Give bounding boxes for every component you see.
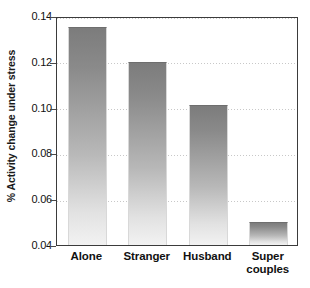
x-axis-tick-label-line: Super	[238, 250, 299, 263]
y-axis-tick-label: 0.04	[20, 239, 52, 251]
x-axis-tick-label: Stranger	[117, 250, 178, 263]
y-axis-tick-label: 0.10	[20, 102, 52, 114]
y-axis-tick-label: 0.06	[20, 193, 52, 205]
x-axis-tick-labels: AloneStrangerHusbandSupercouples	[56, 250, 298, 288]
y-axis-tick-label: 0.14	[20, 10, 52, 22]
chart-figure: % Activity change under stress 0.040.060…	[0, 0, 310, 288]
bar	[128, 62, 167, 245]
y-axis-tick-mark	[50, 109, 56, 110]
x-axis-tick-label: Alone	[56, 250, 117, 263]
y-axis-tick-mark	[50, 17, 56, 18]
y-axis-tick-mark	[50, 63, 56, 64]
y-axis-tick-label: 0.08	[20, 147, 52, 159]
y-axis-title-text: % Activity change under stress	[5, 50, 17, 202]
y-axis-tick-mark	[50, 154, 56, 155]
plot-area	[56, 17, 298, 246]
x-axis-tick-label: Husband	[177, 250, 238, 263]
bar	[189, 105, 228, 245]
gridline	[57, 18, 297, 19]
x-axis-tick-label-line: couples	[238, 263, 299, 276]
y-axis-tick-mark	[50, 200, 56, 201]
y-axis-tick-labels: 0.040.060.080.100.120.14	[18, 0, 52, 288]
bar	[249, 222, 288, 245]
x-axis-tick-label: Supercouples	[238, 250, 299, 276]
y-axis-tick-mark	[50, 246, 56, 247]
bar	[68, 27, 107, 245]
y-axis-tick-label: 0.12	[20, 56, 52, 68]
